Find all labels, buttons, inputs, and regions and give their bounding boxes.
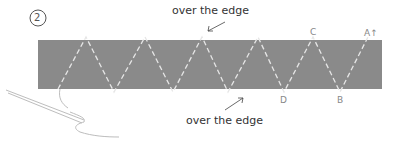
point-b-label: B <box>337 96 343 105</box>
arrow-top-icon <box>208 22 225 31</box>
point-a-label: A↑ <box>364 29 378 38</box>
label-over-edge-top: over the edge <box>172 5 249 16</box>
step-number: 2 <box>34 13 40 23</box>
label-over-edge-bottom: over the edge <box>186 115 263 126</box>
arrow-bottom-icon <box>225 98 243 110</box>
fabric-strip <box>38 40 382 89</box>
needle-icon <box>6 89 119 137</box>
point-c-label: C <box>310 28 316 37</box>
point-d-label: D <box>280 96 287 105</box>
